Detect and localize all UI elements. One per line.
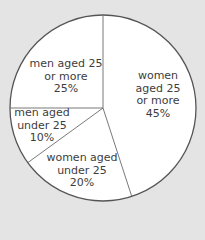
slice-label-line: 25% — [30, 83, 103, 96]
slice-label: womenaged 25or more45% — [136, 70, 181, 120]
slice-label-line: women aged — [46, 152, 117, 165]
slice-label-line: men aged — [14, 107, 69, 120]
slice-label: men aged 25or more25% — [30, 58, 103, 96]
slice-label-line: 20% — [46, 177, 117, 190]
slice-label-line: men aged 25 — [30, 58, 103, 71]
slice-label-line: 45% — [136, 108, 181, 121]
slice-label-line: or more — [136, 95, 181, 108]
slice-label: men agedunder 2510% — [14, 107, 69, 145]
slice-label-line: 10% — [14, 132, 69, 145]
slice-label-line: women — [136, 70, 181, 83]
slice-label: women agedunder 2520% — [46, 152, 117, 190]
